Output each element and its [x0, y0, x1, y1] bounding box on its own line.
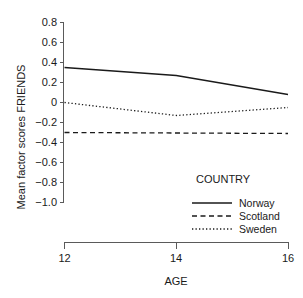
series-line-norway: [65, 68, 289, 95]
y-tick-label-6: −0.4: [35, 136, 57, 148]
x-tick-label-0: 12: [58, 252, 70, 264]
series-line-sweden: [65, 103, 289, 116]
y-tick-label-2: 0.4: [42, 56, 57, 68]
y-tick-label-7: −0.6: [35, 156, 57, 168]
legend-label-norway: Norway: [239, 197, 275, 209]
legend-label-scotland: Scotland: [239, 210, 280, 222]
x-tick-label-2: 16: [282, 252, 294, 264]
y-tick-label-1: 0.6: [42, 36, 57, 48]
y-tick-label-3: 0.2: [42, 76, 57, 88]
y-axis-title: Mean factor scores FRIENDS: [15, 65, 27, 210]
legend-label-sweden: Sweden: [239, 223, 277, 235]
y-tick-label-0: 0.8: [42, 16, 57, 28]
line-chart: Mean factor scores FRIENDS 0.8 0.6 0.4 0…: [0, 0, 303, 298]
legend-title: COUNTRY: [196, 173, 251, 185]
series-line-scotland: [65, 133, 289, 134]
x-tick-label-1: 14: [170, 252, 182, 264]
y-tick-label-9: −1.0: [35, 196, 57, 208]
y-tick-label-5: −0.2: [35, 116, 57, 128]
y-tick-label-8: −0.8: [35, 176, 57, 188]
chart-figure: Mean factor scores FRIENDS 0.8 0.6 0.4 0…: [0, 0, 303, 298]
x-axis-title: AGE: [164, 275, 187, 287]
y-tick-label-4: 0: [51, 96, 57, 108]
